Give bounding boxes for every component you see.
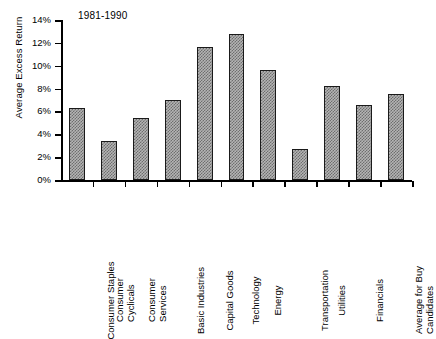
y-tick-label: 0%	[37, 174, 51, 185]
x-tick-mark	[284, 181, 286, 187]
x-label-slot: Consumer Staples	[71, 192, 83, 300]
x-tick-mark	[316, 181, 318, 187]
bar	[133, 118, 149, 180]
y-tick-label: 10%	[32, 59, 51, 70]
x-label-slot: Transportation	[294, 192, 306, 300]
bar	[324, 86, 340, 180]
bar	[101, 141, 117, 180]
x-axis-label: ConsumerCyclicals	[115, 278, 136, 322]
bar	[165, 100, 181, 180]
x-tick-mark	[221, 181, 223, 187]
bar	[197, 47, 213, 180]
bar	[388, 94, 404, 180]
x-label-slot: Energy	[262, 192, 274, 300]
y-tick-mark	[55, 180, 61, 182]
bar	[69, 108, 85, 180]
x-axis-label: Utilities	[337, 285, 348, 316]
x-tick-mark	[348, 181, 350, 187]
x-axis-line	[61, 180, 412, 182]
y-axis-title: Average Excess Return	[13, 0, 24, 138]
y-tick-label: 12%	[32, 36, 51, 47]
x-tick-mark	[93, 181, 95, 187]
x-axis-label: ConsumerServices	[147, 278, 168, 322]
x-label-slot: Financials	[358, 192, 370, 300]
y-tick-label: 6%	[37, 105, 51, 116]
x-axis-label: Average for BuyCandidates	[415, 266, 436, 334]
y-tick-label: 2%	[37, 151, 51, 162]
plot-area	[61, 20, 412, 180]
x-axis-label: Technology	[250, 276, 261, 324]
bar	[260, 70, 276, 180]
x-axis-label: Energy	[273, 285, 284, 315]
x-tick-mark	[252, 181, 254, 187]
x-label-slot: ConsumerCyclicals	[103, 192, 115, 300]
x-label-slot: ConsumerServices	[135, 192, 147, 300]
x-label-slot: Average for BuyCandidates	[390, 192, 402, 300]
y-tick-label: 8%	[37, 82, 51, 93]
x-tick-mark	[125, 181, 127, 187]
x-label-slot: Utilities	[326, 192, 338, 300]
y-tick-label: 4%	[37, 128, 51, 139]
bar	[356, 105, 372, 180]
x-label-slot: Basic Industries	[167, 192, 179, 300]
x-tick-mark	[380, 181, 382, 187]
x-tick-mark	[189, 181, 191, 187]
x-tick-mark	[157, 181, 159, 187]
x-label-slot: Technology	[231, 192, 243, 300]
y-tick-label: 14%	[32, 14, 51, 25]
x-axis-label: Financials	[375, 279, 386, 322]
bar	[292, 149, 308, 180]
x-label-slot: Capital Goods	[199, 192, 211, 300]
bar	[229, 34, 245, 180]
x-tick-mark	[412, 181, 414, 187]
